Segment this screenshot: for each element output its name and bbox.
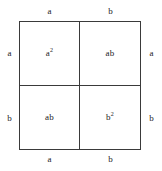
cell-top-right-base: ab	[106, 48, 115, 58]
cell-top-left-exponent: 2	[50, 47, 53, 53]
cell-bottom-left-label: ab	[45, 113, 54, 122]
edge-label-bottom-left: a	[19, 155, 80, 164]
square-outline: a2 ab ab b2	[19, 21, 141, 150]
cell-top-right: ab	[80, 22, 140, 86]
edge-label-right-top: a	[146, 49, 157, 58]
edge-label-bottom-right: b	[80, 155, 141, 164]
cell-top-right-label: ab	[106, 49, 115, 58]
cell-top-left: a2	[20, 22, 80, 86]
cell-top-left-label: a2	[46, 49, 53, 58]
edge-label-top-right: b	[80, 7, 141, 16]
cell-bottom-right: b2	[80, 86, 140, 150]
edge-label-left-top: a	[4, 49, 15, 58]
cell-bottom-left-base: ab	[45, 112, 54, 122]
algebraic-square-diagram: a b a b a b a b a2 ab ab b2	[0, 0, 162, 171]
edge-label-right-bottom: b	[146, 114, 157, 123]
edge-label-top-left: a	[19, 7, 80, 16]
cell-bottom-right-label: b2	[106, 113, 114, 122]
cell-bottom-left: ab	[20, 86, 80, 150]
edge-label-left-bottom: b	[4, 114, 15, 123]
cell-bottom-right-exponent: 2	[111, 111, 114, 117]
